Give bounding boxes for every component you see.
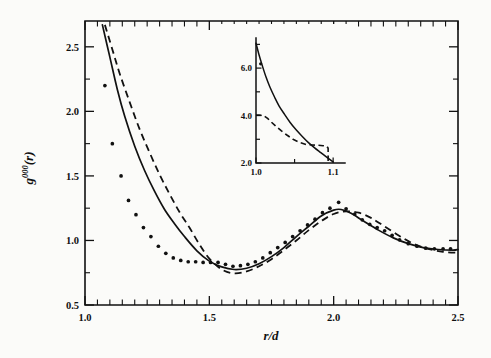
data-point xyxy=(157,244,161,248)
data-point xyxy=(321,211,325,215)
scientific-line-chart: 1.01.52.02.5 0.51.01.52.02.5 r/d g000(r)… xyxy=(0,0,491,358)
inset-x-tick-label: 1.1 xyxy=(328,167,340,177)
data-point xyxy=(441,247,445,251)
y-tick-label: 2.0 xyxy=(66,106,79,117)
data-point xyxy=(186,260,190,264)
data-point xyxy=(375,226,379,230)
data-point xyxy=(298,229,302,233)
data-point xyxy=(449,247,453,251)
data-point xyxy=(142,226,146,230)
y-tick-label: 2.5 xyxy=(66,42,79,53)
data-point xyxy=(353,212,357,216)
data-point xyxy=(119,174,123,178)
data-point xyxy=(276,246,280,250)
y-tick-label: 1.5 xyxy=(66,171,79,182)
data-point xyxy=(246,262,250,266)
inset-x-tick-label: 1.0 xyxy=(250,167,262,177)
data-point xyxy=(313,217,317,221)
data-point xyxy=(134,213,138,217)
inset-y-tick-label: 4.0 xyxy=(241,111,253,121)
data-point xyxy=(337,201,341,205)
data-point xyxy=(261,256,265,260)
data-point xyxy=(344,207,348,211)
inset-background xyxy=(220,24,353,179)
x-axis-title: r/d xyxy=(263,328,279,343)
data-point xyxy=(306,223,310,227)
data-point xyxy=(209,261,213,265)
data-point xyxy=(291,235,295,239)
inset-panel: 1.01.1 2.04.06.0 xyxy=(220,24,353,179)
y-tick-label: 1.0 xyxy=(66,235,79,246)
data-point xyxy=(224,262,228,266)
data-point xyxy=(149,235,153,239)
data-point xyxy=(368,222,372,226)
data-point xyxy=(398,238,402,242)
x-tick-label: 1.0 xyxy=(78,312,91,323)
data-point xyxy=(201,261,205,265)
data-point xyxy=(424,246,428,250)
data-point xyxy=(127,199,131,203)
data-point xyxy=(328,206,332,210)
x-tick-label: 1.5 xyxy=(203,312,216,323)
data-point xyxy=(231,264,235,268)
inset-y-tick-label: 2.0 xyxy=(241,158,253,168)
data-point xyxy=(268,251,272,255)
data-point xyxy=(390,233,394,237)
inset-y-tick-label: 6.0 xyxy=(241,63,253,73)
data-point xyxy=(194,260,198,264)
x-tick-label: 2.5 xyxy=(451,312,464,323)
data-point xyxy=(111,142,115,146)
figure-panel: 1.01.52.02.5 0.51.01.52.02.5 r/d g000(r)… xyxy=(0,0,491,358)
data-point xyxy=(383,229,387,233)
data-point xyxy=(360,218,364,222)
data-point xyxy=(415,244,419,248)
y-tick-label: 0.5 xyxy=(66,300,79,311)
data-point xyxy=(171,256,175,260)
inset-data-point xyxy=(259,62,262,65)
y-axis-title-argument: (r) xyxy=(21,152,36,166)
x-tick-label: 2.0 xyxy=(327,312,340,323)
data-point xyxy=(253,260,257,264)
data-point xyxy=(239,264,243,268)
data-point xyxy=(179,259,183,263)
data-point xyxy=(216,261,220,265)
data-point xyxy=(164,252,168,256)
y-axis-title-superscript: 000 xyxy=(20,164,30,178)
data-point xyxy=(433,247,437,251)
data-point xyxy=(406,242,410,246)
data-point xyxy=(283,241,287,245)
inset-dotted-data-series xyxy=(259,62,262,65)
data-point xyxy=(103,84,107,88)
